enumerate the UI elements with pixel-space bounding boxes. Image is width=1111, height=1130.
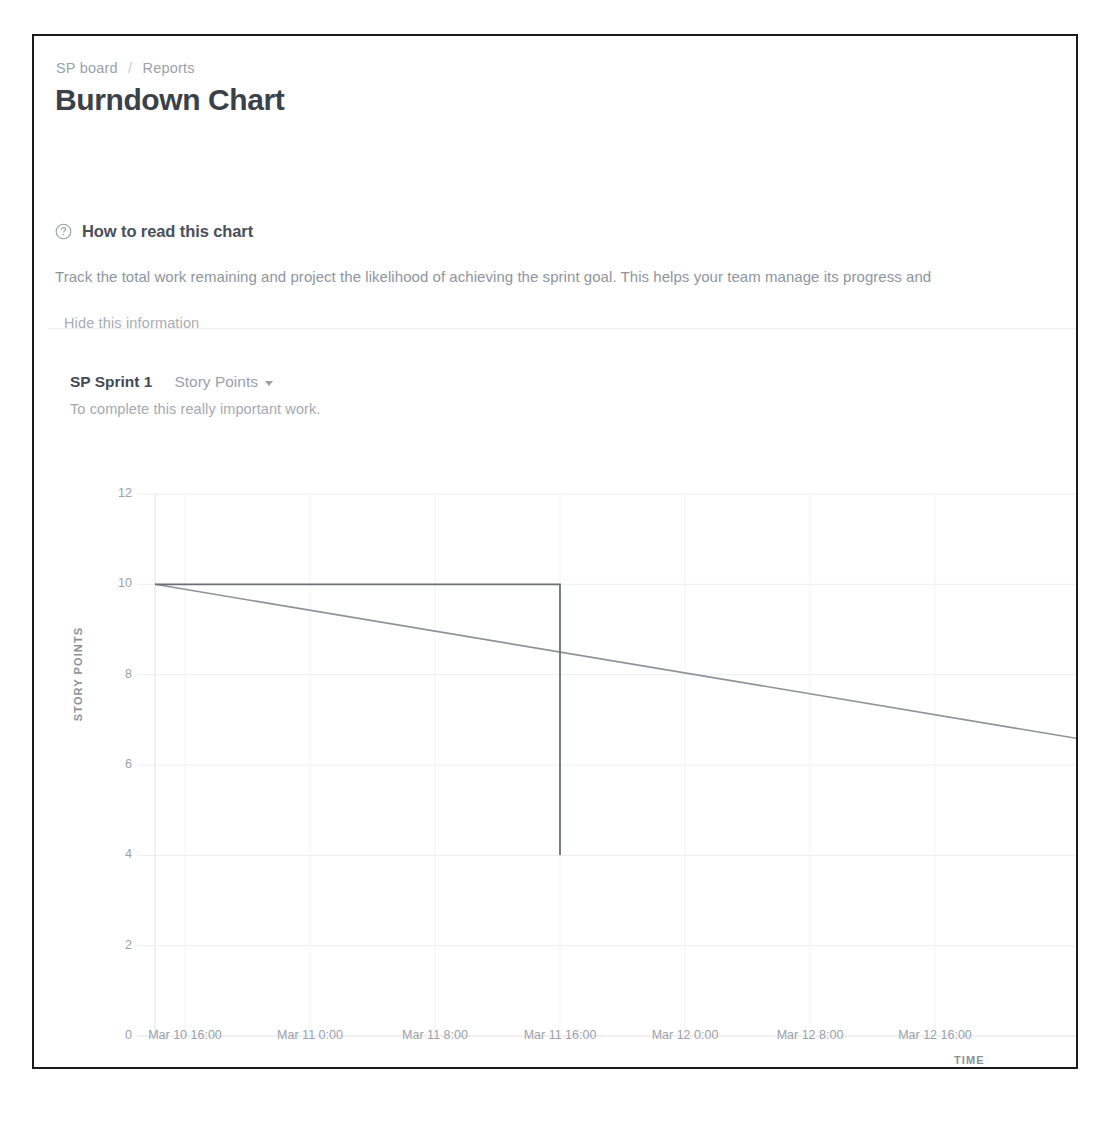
breadcrumb-board-link[interactable]: SP board bbox=[56, 60, 118, 76]
how-to-read-title: How to read this chart bbox=[82, 222, 253, 241]
breadcrumb: SP board / Reports bbox=[56, 60, 195, 76]
sprint-header-row: SP Sprint 1 Story Points bbox=[70, 373, 273, 391]
x-tick-5: Mar 12 8:00 bbox=[740, 1028, 880, 1042]
sprint-name: SP Sprint 1 bbox=[70, 373, 152, 391]
y-tick-2: 2 bbox=[92, 938, 132, 952]
remaining-values-series bbox=[155, 584, 560, 855]
section-divider bbox=[48, 328, 1076, 329]
question-circle-icon bbox=[55, 223, 72, 240]
x-tick-1: Mar 11 0:00 bbox=[240, 1028, 380, 1042]
y-tick-4: 4 bbox=[92, 847, 132, 861]
how-to-read-body: Track the total work remaining and proje… bbox=[55, 268, 1076, 285]
guideline-series bbox=[155, 584, 1076, 748]
x-axis-title: TIME bbox=[954, 1054, 985, 1066]
x-tick-4: Mar 12 0:00 bbox=[615, 1028, 755, 1042]
x-tick-6: Mar 12 16:00 bbox=[865, 1028, 1005, 1042]
y-tick-12: 12 bbox=[92, 486, 132, 500]
unit-dropdown-label: Story Points bbox=[174, 373, 258, 391]
chevron-down-icon bbox=[265, 381, 273, 386]
burndown-chart: 12 10 8 6 4 2 0 Mar 10 16:00 Mar 11 0:00… bbox=[34, 436, 1076, 1067]
x-tick-3: Mar 11 16:00 bbox=[490, 1028, 630, 1042]
y-tick-6: 6 bbox=[92, 757, 132, 771]
how-to-read-header: How to read this chart bbox=[55, 222, 253, 241]
breadcrumb-separator: / bbox=[122, 60, 138, 76]
sprint-goal-text: To complete this really important work. bbox=[70, 401, 321, 417]
unit-dropdown[interactable]: Story Points bbox=[174, 373, 273, 391]
x-tick-2: Mar 11 8:00 bbox=[365, 1028, 505, 1042]
breadcrumb-reports-link[interactable]: Reports bbox=[143, 60, 195, 76]
page-title: Burndown Chart bbox=[55, 83, 284, 117]
x-tick-0: Mar 10 16:00 bbox=[115, 1028, 255, 1042]
y-tick-8: 8 bbox=[92, 667, 132, 681]
burndown-chart-plot bbox=[34, 436, 1076, 1067]
report-page: SP board / Reports Burndown Chart How to… bbox=[34, 36, 1076, 1067]
y-axis-title: STORY POINTS bbox=[72, 604, 84, 744]
y-tick-10: 10 bbox=[92, 576, 132, 590]
scanned-page-frame: SP board / Reports Burndown Chart How to… bbox=[32, 34, 1078, 1069]
